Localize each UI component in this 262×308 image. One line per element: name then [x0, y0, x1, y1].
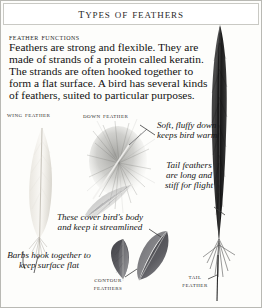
intro-paragraph: Feathers are strong and flexible. They a…: [9, 42, 214, 102]
label-tail-feather: Tail feather: [177, 273, 213, 290]
down-feather-illustration: [85, 119, 157, 214]
label-contour-feathers: Contour feathers: [85, 276, 131, 293]
annotation-barbs: Barbs hook together to keep surface flat: [7, 251, 91, 271]
page-title: Types of Feathers: [78, 6, 184, 22]
feather-info-card: Types of Feathers Feather functions Feat…: [0, 0, 262, 308]
intro-text: Feathers are strong and flexible. They a…: [9, 42, 214, 102]
annotation-contour-feathers: These cover bird's body and keep it stre…: [51, 213, 149, 233]
leader-line-tail: [214, 207, 225, 215]
leader-line-contour: [149, 229, 161, 237]
annotation-tail-feather: Tail feathers are long and stiff for fli…: [161, 161, 217, 191]
label-down-feather: Down feather: [83, 112, 128, 120]
wing-feather-illustration: [9, 121, 71, 261]
label-wing-feather: Wing feather: [7, 111, 50, 119]
leader-line-down: [140, 125, 155, 135]
annotation-down-feather: Soft, fluffy down keeps bird warm: [157, 121, 223, 141]
title-bar: Types of Feathers: [3, 3, 259, 25]
